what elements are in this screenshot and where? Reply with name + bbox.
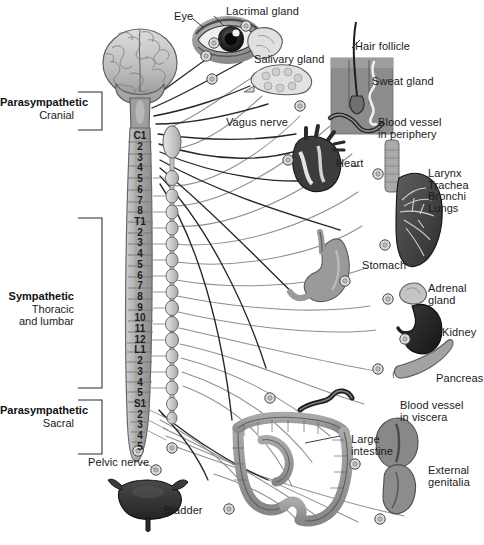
- label-large-intestine: Large intestine: [351, 434, 393, 457]
- spinal-segment-thoracic-8: 8: [126, 292, 154, 302]
- large-intestine: [232, 417, 348, 521]
- kidney: [398, 304, 442, 353]
- spinal-segment-thoracic-5: 5: [126, 260, 154, 270]
- brain: [103, 29, 177, 130]
- label-bladder: Bladder: [164, 505, 203, 517]
- spinal-segment-sacral-4: 4: [126, 431, 154, 441]
- spinal-segment-lumbar-2: 2: [126, 356, 154, 366]
- label-sweat-gland: Sweat gland: [372, 76, 434, 88]
- label-blood-vessel-viscera: Blood vessel in viscera: [400, 400, 464, 423]
- blood-vessel-viscera: [300, 391, 352, 410]
- parasympathetic-nerve-fibers: [150, 38, 340, 480]
- salivary-gland: [244, 65, 312, 95]
- spinal-segment-sacral-2: 2: [126, 410, 154, 420]
- spinal-segment-cervical-2: 2: [126, 142, 154, 152]
- spinal-segment-lumbar-3: 3: [126, 367, 154, 377]
- spinal-segment-cervical-4: 4: [126, 163, 154, 173]
- label-larynx-trachea-bronchi-lungs: Larynx Trachea Bronchi Lungs: [428, 168, 469, 214]
- stomach: [290, 232, 349, 302]
- division-brackets: [78, 92, 102, 454]
- spinal-segment-sacral-3: 3: [126, 420, 154, 430]
- spinal-segment-thoracic-2: 2: [126, 228, 154, 238]
- label-hair-follicle: Hair follicle: [355, 41, 410, 53]
- label-eye: Eye: [174, 11, 193, 23]
- label-heart: Heart: [336, 158, 363, 170]
- division-label-parasympathetic-sacral: Parasympathetic: [0, 404, 74, 416]
- division-label-sympathetic: Sympathetic: [0, 290, 74, 302]
- label-pancreas: Pancreas: [436, 373, 483, 385]
- spinal-segment-thoracic-9: 9: [126, 303, 154, 313]
- autonomic-nervous-system-figure: Parasympathetic Cranial Sympathetic Thor…: [0, 0, 484, 545]
- spinal-segment-thoracic-4: 4: [126, 249, 154, 259]
- division-label-parasympathetic-cranial: Parasympathetic: [0, 96, 74, 108]
- label-stomach: Stomach: [362, 260, 406, 272]
- external-genitalia: [376, 418, 418, 514]
- spinal-segment-thoracic-10: 10: [126, 313, 154, 323]
- spinal-segment-cervical-8: 8: [126, 206, 154, 216]
- label-adrenal-gland: Adrenal gland: [428, 283, 467, 306]
- spinal-segment-sacral-1: S1: [126, 399, 154, 409]
- spinal-segment-lumbar-1: L1: [126, 345, 154, 355]
- adrenal-gland: [400, 283, 427, 304]
- spinal-segment-thoracic-6: 6: [126, 271, 154, 281]
- spinal-segment-thoracic-7: 7: [126, 281, 154, 291]
- label-kidney: Kidney: [442, 327, 476, 339]
- spinal-segment-sacral-5: 5: [126, 442, 154, 452]
- spinal-segment-cervical-5: 5: [126, 174, 154, 184]
- spinal-segment-thoracic-1: T1: [126, 217, 154, 227]
- label-vagus-nerve: Vagus nerve: [226, 117, 288, 129]
- label-external-genitalia: External genitalia: [428, 465, 470, 488]
- spinal-segment-cervical-1: C1: [126, 131, 154, 141]
- spinal-segment-cervical-3: 3: [126, 153, 154, 163]
- division-sublabel-cranial: Cranial: [0, 109, 74, 121]
- spinal-segment-thoracic-11: 11: [126, 324, 154, 334]
- label-pelvic-nerve: Pelvic nerve: [88, 457, 149, 469]
- spinal-segment-thoracic-12: 12: [126, 335, 154, 345]
- spinal-segment-lumbar-4: 4: [126, 378, 154, 388]
- label-blood-vessel-periphery: Blood vessel in periphery: [378, 117, 442, 140]
- spinal-segment-lumbar-5: 5: [126, 388, 154, 398]
- division-sublabel-thoracolumbar: Thoracic and lumbar: [0, 303, 74, 327]
- spinal-segment-cervical-6: 6: [126, 185, 154, 195]
- spinal-segment-thoracic-3: 3: [126, 238, 154, 248]
- spinal-segment-cervical-7: 7: [126, 196, 154, 206]
- label-salivary-gland: Salivary gland: [254, 54, 325, 66]
- label-lacrimal-gland: Lacrimal gland: [226, 6, 299, 18]
- division-sublabel-sacral: Sacral: [0, 417, 74, 429]
